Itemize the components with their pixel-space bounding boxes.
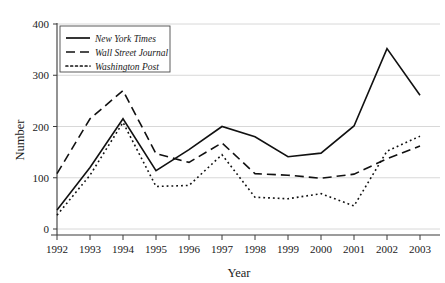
x-tick-label-2001: 2001 bbox=[343, 243, 365, 255]
y-tick-label-300: 300 bbox=[33, 69, 50, 81]
x-tick-label-2000: 2000 bbox=[310, 243, 333, 255]
x-tick-label-2003: 2003 bbox=[409, 243, 432, 255]
legend-label-new-york-times: New York Times bbox=[94, 34, 156, 44]
chart-canvas: 0100200300400 19921993199419951996199719… bbox=[0, 0, 445, 283]
x-tick-label-1992: 1992 bbox=[46, 243, 68, 255]
x-tick-label-1993: 1993 bbox=[79, 243, 102, 255]
x-tick-label-1994: 1994 bbox=[112, 243, 135, 255]
x-tick-label-1997: 1997 bbox=[211, 243, 234, 255]
y-tick-label-100: 100 bbox=[33, 172, 50, 184]
x-tick-label-1998: 1998 bbox=[244, 243, 267, 255]
x-tick-label-2002: 2002 bbox=[376, 243, 398, 255]
legend-label-washington-post: Washington Post bbox=[95, 62, 159, 72]
y-tick-label-400: 400 bbox=[33, 18, 50, 30]
x-axis-title: Year bbox=[227, 266, 251, 280]
chart-legend: New York TimesWall Street JournalWashing… bbox=[60, 26, 170, 72]
y-tick-label-0: 0 bbox=[44, 223, 50, 235]
data-series-group bbox=[57, 49, 420, 216]
x-tick-label-1996: 1996 bbox=[178, 243, 201, 255]
x-tick-label-1995: 1995 bbox=[145, 243, 168, 255]
line-chart-figure: 0100200300400 19921993199419951996199719… bbox=[0, 0, 445, 283]
y-axis-title: Number bbox=[13, 119, 27, 161]
y-tick-labels-group: 0100200300400 bbox=[33, 18, 50, 235]
y-tick-label-200: 200 bbox=[33, 121, 50, 133]
legend-label-wall-street-journal: Wall Street Journal bbox=[95, 48, 169, 58]
x-tick-labels-group: 1992199319941995199619971998199920002001… bbox=[46, 243, 432, 255]
x-tick-label-1999: 1999 bbox=[277, 243, 300, 255]
